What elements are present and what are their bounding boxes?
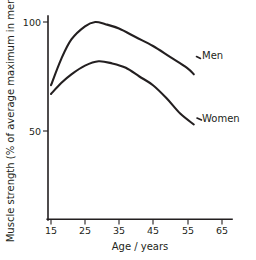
y-tick-label-100: 100 <box>23 17 41 28</box>
x-axis-title: Age / years <box>112 241 169 252</box>
leader-line-women <box>197 118 202 120</box>
x-tick-label-15: 15 <box>45 225 57 236</box>
series-label-men: Men <box>202 50 223 61</box>
y-axis-title: Muscle strength (% of average maximum in… <box>5 0 16 242</box>
x-axis-ticks: 15 25 35 45 55 65 <box>45 219 228 236</box>
muscle-strength-line-chart: 100 50 15 25 35 45 55 65 Men Women Age <box>0 0 256 260</box>
series-curve-men <box>51 22 194 85</box>
x-tick-label-45: 45 <box>147 225 159 236</box>
leader-line-men <box>197 57 201 59</box>
x-tick-label-35: 35 <box>113 225 125 236</box>
x-tick-label-25: 25 <box>79 225 91 236</box>
series-label-women: Women <box>202 113 240 124</box>
series-curve-women <box>51 61 194 124</box>
x-tick-label-55: 55 <box>182 225 194 236</box>
y-axis-ticks: 100 50 <box>23 17 48 137</box>
y-tick-label-50: 50 <box>29 126 41 137</box>
x-tick-label-65: 65 <box>216 225 228 236</box>
chart-figure: 100 50 15 25 35 45 55 65 Men Women Age <box>0 0 256 260</box>
